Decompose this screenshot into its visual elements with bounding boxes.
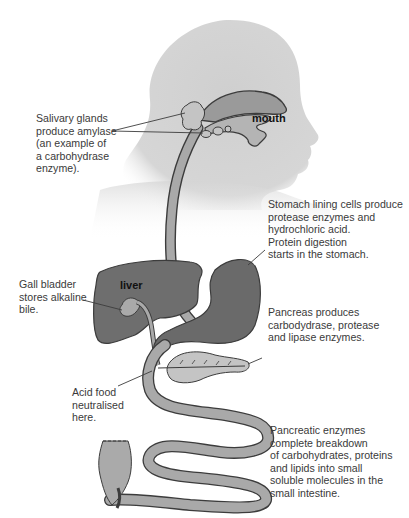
- gall-bladder-annotation: Gall bladder stores alkaline bile.: [19, 278, 87, 316]
- pancreas-annotation: Pancreas produces carbodydrase, protease…: [268, 306, 379, 344]
- acid-food-annotation: Acid food neutralised here.: [72, 386, 124, 424]
- mouth-label: mouth: [252, 112, 286, 124]
- small-intestine-annotation: Pancreatic enzymes complete breakdown of…: [270, 424, 393, 500]
- stomach-annotation: Stomach lining cells produce protease en…: [268, 198, 403, 261]
- liver-label: liver: [120, 279, 143, 291]
- pancreas: [158, 352, 249, 383]
- salivary-gland-annotation: Salivary glands produce amylase (an exam…: [36, 112, 117, 175]
